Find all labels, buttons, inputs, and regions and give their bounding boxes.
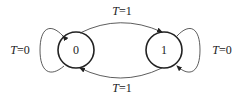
transition-1-to-0-label: T=1 (112, 81, 131, 95)
state-0: 0 (58, 32, 94, 68)
self-loop-1-label: T=0 (212, 43, 231, 57)
self-loop-0 (40, 28, 64, 72)
state-1: 1 (146, 32, 182, 68)
state-diagram: 0 1 T=1 T=1 T=0 T=0 (0, 0, 243, 96)
state-0-label: 0 (73, 43, 79, 57)
transition-0-to-1 (80, 23, 162, 33)
state-1-label: 1 (161, 43, 167, 57)
self-loop-1 (177, 28, 200, 72)
transition-0-to-1-label: T=1 (112, 4, 131, 18)
self-loop-0-label: T=0 (10, 43, 29, 57)
transition-1-to-0 (80, 68, 162, 78)
